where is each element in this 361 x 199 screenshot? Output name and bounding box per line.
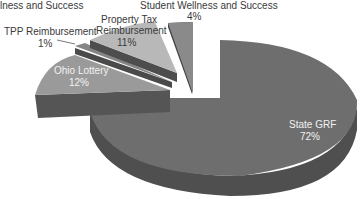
label-student-wellness-top-partial: lness and Success — [0, 0, 83, 12]
label-property-line2: Reimbursement — [96, 25, 167, 37]
label-lottery-pct: 12% — [69, 77, 89, 89]
label-student-name: Student Wellness and Success — [140, 0, 278, 12]
label-grf-name: State GRF — [289, 119, 336, 131]
label-tpp-pct: 1% — [38, 38, 52, 50]
label-tpp-name: TPP Reimbursement — [4, 26, 97, 38]
label-student-pct: 4% — [187, 11, 201, 23]
label-lottery-name: Ohio Lottery — [54, 65, 108, 77]
label-grf-pct: 72% — [300, 131, 320, 143]
tpp-leader-line — [57, 40, 75, 44]
label-property-pct: 11% — [117, 37, 136, 49]
